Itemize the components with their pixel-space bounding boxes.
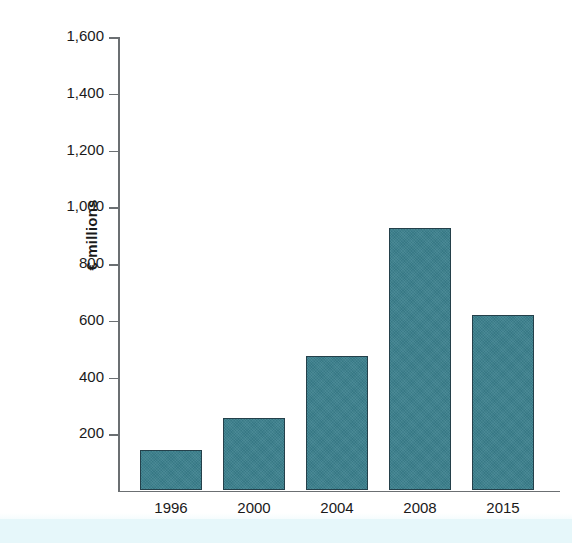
bar-texture [224,419,284,489]
y-tick-mark-800 [109,264,118,266]
bar-2008[interactable] [389,228,451,489]
bar-1996[interactable] [140,450,202,490]
y-tick-mark-1600 [109,37,118,39]
y-tick-label-400: 400 [79,367,104,387]
x-tick-label-2004: 2004 [306,499,368,516]
y-tick-mark-1200 [109,151,118,153]
x-tick-label-2008: 2008 [389,499,451,516]
plot-area: 1,600 1,400 1,200 1,000 800 600 400 200 [118,37,560,491]
bar-2015[interactable] [472,315,534,490]
bar-2004[interactable] [306,356,368,490]
y-tick-label-1600: 1,600 [66,26,104,46]
y-tick-mark-400 [109,378,118,380]
y-tick-label-1400: 1,400 [66,83,104,103]
y-tick-label-1000: 1,000 [66,196,104,216]
bar-chart-figure: € millions 1,600 1,400 1,200 1,000 800 6… [0,0,572,543]
y-tick-1200: 1,200 [50,151,118,152]
y-tick-mark-600 [109,321,118,323]
x-tick-label-1996: 1996 [140,499,202,516]
y-tick-1600: 1,600 [50,37,118,38]
y-tick-label-600: 600 [79,310,104,330]
y-axis-line [118,37,120,492]
page-bottom-band [0,519,572,543]
bar-texture [141,451,201,489]
bar-texture [390,229,450,488]
y-tick-mark-1400 [109,94,118,96]
bar-texture [473,316,533,489]
y-tick-mark-200 [109,434,118,436]
y-axis-title: € millions [82,165,102,305]
y-tick-label-200: 200 [79,423,104,443]
y-tick-200: 200 [50,434,118,435]
x-axis-line [118,491,560,493]
y-tick-1400: 1,400 [50,94,118,95]
bar-2000[interactable] [223,418,285,490]
y-tick-800: 800 [50,264,118,265]
y-tick-400: 400 [50,378,118,379]
y-tick-600: 600 [50,321,118,322]
x-tick-label-2000: 2000 [223,499,285,516]
y-tick-label-1200: 1,200 [66,140,104,160]
y-tick-label-800: 800 [79,253,104,273]
y-tick-1000: 1,000 [50,207,118,208]
y-tick-mark-1000 [109,207,118,209]
x-tick-label-2015: 2015 [472,499,534,516]
bar-texture [307,357,367,489]
